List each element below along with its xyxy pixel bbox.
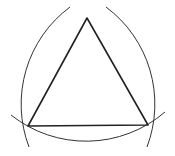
equilateral-triangle bbox=[28, 18, 148, 126]
construction-diagram bbox=[0, 0, 175, 156]
